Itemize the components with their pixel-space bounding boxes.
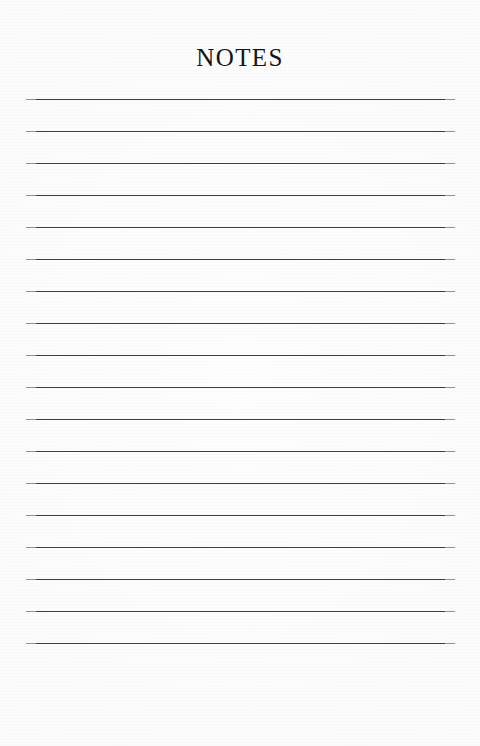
note-line-16[interactable] [26, 579, 455, 580]
note-line-5[interactable] [26, 227, 455, 228]
note-line-12[interactable] [26, 451, 455, 452]
note-line-2[interactable] [26, 131, 455, 132]
note-line-9[interactable] [26, 355, 455, 356]
note-line-11[interactable] [26, 419, 455, 420]
note-line-10[interactable] [26, 387, 455, 388]
note-line-7[interactable] [26, 291, 455, 292]
note-line-18[interactable] [26, 643, 455, 644]
note-line-17[interactable] [26, 611, 455, 612]
note-line-8[interactable] [26, 323, 455, 324]
note-line-1[interactable] [26, 99, 455, 100]
note-line-4[interactable] [26, 195, 455, 196]
note-line-15[interactable] [26, 547, 455, 548]
note-line-3[interactable] [26, 163, 455, 164]
note-line-6[interactable] [26, 259, 455, 260]
note-line-13[interactable] [26, 483, 455, 484]
ruled-lines-area [0, 0, 480, 746]
note-line-14[interactable] [26, 515, 455, 516]
notes-page: NOTES [0, 0, 480, 746]
